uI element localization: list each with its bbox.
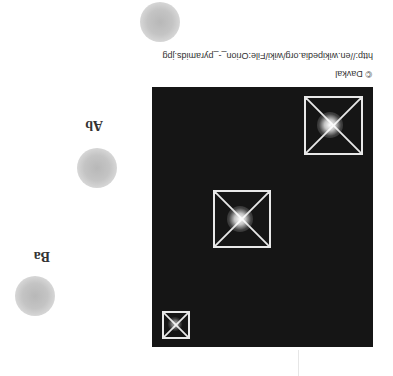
pyramid-small: [162, 311, 190, 339]
star-glow-medium: [227, 206, 253, 232]
star-blob-1: [140, 2, 180, 42]
star-glow-large: [317, 112, 343, 138]
star-glow-small: [168, 317, 182, 331]
pyramid-medium: [213, 190, 271, 248]
label-ba: Ba: [34, 248, 50, 264]
rotated-figure: Ab Ba http://en.wikipedia.org/wiki/File:…: [0, 0, 393, 376]
source-url: http://en.wikipedia.org/wiki/File:Orion_…: [162, 51, 373, 61]
star-blob-2: [77, 148, 117, 188]
copyright: © Davkal: [335, 69, 372, 79]
star-blob-3: [15, 276, 55, 316]
orion-pyramids-photo: [152, 87, 373, 347]
pyramid-large: [304, 96, 363, 155]
divider-line: [298, 350, 299, 376]
label-ab: Ab: [85, 117, 103, 133]
